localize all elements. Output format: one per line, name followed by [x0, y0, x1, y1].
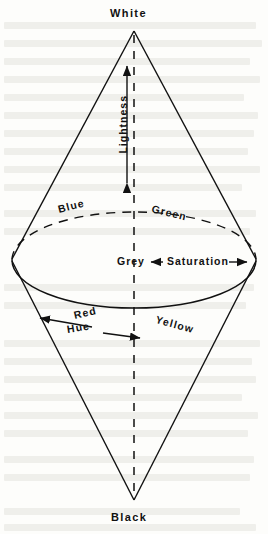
pole-label-black: Black	[111, 512, 147, 523]
center-label-grey: Grey	[117, 256, 145, 267]
colour-bicone-diagram: White Black Lightness Grey Saturation Hu…	[0, 0, 268, 534]
equator-front-half	[12, 260, 256, 308]
hue-arrow-right	[103, 333, 140, 338]
upper-cone-outline	[12, 31, 256, 259]
bicone-svg	[0, 0, 268, 534]
pole-label-white: White	[110, 8, 147, 19]
equator-back-half	[12, 212, 256, 260]
axis-label-lightness: Lightness	[118, 95, 129, 154]
axis-label-saturation: Saturation	[167, 256, 229, 267]
